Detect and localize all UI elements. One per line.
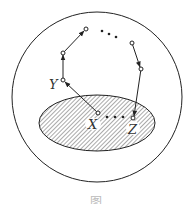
node-z: [131, 116, 135, 120]
node-3: [84, 27, 88, 31]
node-2: [61, 51, 65, 55]
label-x: X: [87, 117, 98, 132]
edge-n2-to-n3: [63, 31, 84, 53]
ellipsis-dots-top: [101, 30, 118, 39]
node-y: [61, 78, 65, 82]
label-y: Y: [49, 77, 59, 92]
figure-caption: 图: [90, 195, 102, 204]
node-5: [139, 67, 143, 71]
node-x: [96, 111, 100, 115]
edge-n4-to-n5: [132, 43, 140, 67]
node-4: [130, 41, 134, 45]
label-z: Z: [127, 122, 138, 137]
random-walk-diagram: Y X Z 图: [0, 0, 195, 204]
